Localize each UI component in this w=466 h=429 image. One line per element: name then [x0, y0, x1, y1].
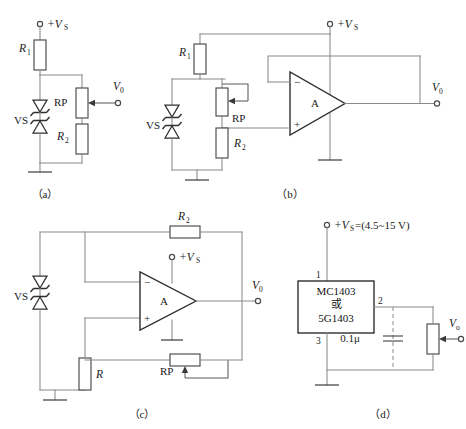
- supply-label-a: +V: [47, 18, 64, 30]
- supply-terminal-c[interactable]: [169, 254, 174, 259]
- four-panel-voltage-reference-circuits: +V S R 1 VS RP V 0: [0, 0, 466, 429]
- supply-terminal-b[interactable]: [327, 21, 332, 26]
- wiper-arrowhead-a: [88, 100, 95, 106]
- opamp-label-b: A: [311, 97, 319, 109]
- vs-label-a: VS: [14, 114, 28, 126]
- r-label-c: R: [95, 368, 103, 380]
- zener-diode-lower-c: [33, 297, 47, 309]
- vs-label-c: VS: [14, 290, 28, 302]
- resistor-r2-b: [216, 128, 228, 158]
- supply-value-d: =(4.5~15 V): [355, 219, 410, 232]
- r2-label-b: R: [233, 137, 241, 149]
- circuit-a: +V S R 1 VS RP V 0: [14, 18, 124, 201]
- circuit-b: +V S R 1 VS RP: [146, 18, 443, 201]
- supply-sub-a: S: [64, 23, 68, 32]
- wiper-arrowhead-b: [228, 98, 235, 104]
- circuit-figure-sheet: +V S R 1 VS RP V 0: [0, 0, 466, 429]
- supply-sub-b: S: [354, 23, 358, 32]
- r1-sub-a: 1: [27, 48, 31, 57]
- supply-label-b: +V: [337, 18, 354, 30]
- pin2-label-d: 2: [378, 296, 383, 306]
- caption-c: （c）: [129, 408, 156, 420]
- output-terminal-a[interactable]: [115, 100, 120, 105]
- r1-label-a: R: [18, 42, 26, 54]
- r2-sub-a: 2: [65, 136, 69, 145]
- resistor-r1-b: [194, 44, 206, 74]
- out-sub-a: 0: [120, 86, 124, 95]
- zener-diode-upper-a: [33, 100, 47, 112]
- r2-label-c: R: [177, 210, 185, 222]
- zener-diode-upper-b: [165, 105, 179, 117]
- opamp-label-c: A: [160, 295, 168, 307]
- wiper-arrowhead-d: [439, 336, 446, 342]
- opamp-minus-b: −: [294, 76, 300, 88]
- caption-d: （d）: [369, 408, 397, 420]
- r2-sub-b: 2: [242, 143, 246, 152]
- zener-diode-upper-c: [33, 276, 47, 288]
- output-terminal-b[interactable]: [434, 101, 439, 106]
- circuit-d: +V S =(4.5~15 V) 1 MC1403 或 5G1403 2 3 0…: [298, 219, 464, 421]
- resistor-r-c: [79, 358, 91, 390]
- ic-line3-d: 5G1403: [318, 312, 354, 324]
- potentiometer-rp-c[interactable]: [170, 354, 200, 366]
- resistor-r2-a: [76, 124, 88, 154]
- opamp-minus-c: −: [144, 276, 150, 288]
- output-terminal-c[interactable]: [255, 298, 260, 303]
- supply-sub-d: S: [350, 224, 354, 233]
- supply-sub-c: S: [196, 256, 200, 265]
- pin3-label-d: 3: [316, 336, 321, 346]
- rp-label-b: RP: [232, 112, 245, 124]
- r2-sub-c: 2: [186, 216, 190, 225]
- rp-label-c: RP: [160, 365, 173, 377]
- out-sub-c: 0: [259, 285, 263, 294]
- r2-label-a: R: [56, 130, 64, 142]
- ic-line2-d: 或: [331, 298, 342, 310]
- opamp-plus-c: +: [144, 312, 150, 324]
- capacitor-label-d: 0.1μ: [340, 332, 360, 344]
- caption-b: （b）: [276, 188, 304, 200]
- vs-label-b: VS: [146, 119, 160, 131]
- supply-terminal-d[interactable]: [324, 222, 329, 227]
- resistor-r1-a: [34, 40, 46, 70]
- circuit-c: R 2 VS R A − + +V: [14, 210, 263, 420]
- wiper-arrowhead-c: [182, 366, 188, 373]
- supply-label-d: +V: [334, 219, 351, 231]
- zener-diode-lower-a: [33, 121, 47, 133]
- r1-sub-b: 1: [187, 52, 191, 61]
- zener-diode-lower-b: [165, 126, 179, 138]
- supply-label-c: +V: [179, 251, 196, 263]
- ic-line1-d: MC1403: [316, 285, 356, 297]
- pin1-label-d: 1: [316, 270, 321, 280]
- resistor-r2-c: [170, 226, 200, 238]
- caption-a: （a）: [32, 188, 59, 200]
- potentiometer-output-d[interactable]: [427, 324, 439, 354]
- out-sub-d: o: [456, 323, 460, 332]
- supply-terminal-a[interactable]: [37, 21, 42, 26]
- r1-label-b: R: [178, 46, 186, 58]
- output-terminal-d[interactable]: [458, 336, 463, 341]
- potentiometer-rp-a[interactable]: [76, 88, 88, 118]
- opamp-plus-b: +: [294, 118, 300, 130]
- rp-label-a: RP: [54, 96, 67, 108]
- potentiometer-rp-b[interactable]: [216, 88, 228, 116]
- out-sub-b: 0: [439, 87, 443, 96]
